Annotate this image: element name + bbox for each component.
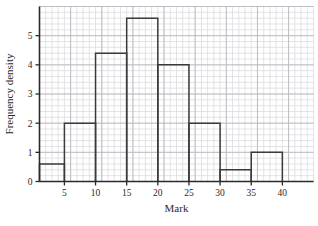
y-tick-label: 4 — [28, 60, 33, 70]
x-tick-label: 20 — [153, 188, 163, 198]
y-tick-label: 3 — [28, 89, 33, 99]
x-axis-title: Mark — [165, 202, 189, 214]
y-tick-label: 5 — [28, 31, 33, 41]
x-tick-label: 40 — [278, 188, 288, 198]
histogram-chart: 510152025303540 012345 Mark Frequency de… — [0, 0, 318, 226]
x-tick-label: 5 — [62, 188, 67, 198]
x-tick-label: 25 — [184, 188, 194, 198]
y-tick-label: 1 — [28, 148, 33, 158]
y-tick-label: 0 — [28, 177, 33, 187]
y-tick-label: 2 — [28, 119, 33, 129]
x-tick-label: 15 — [122, 188, 132, 198]
chart-canvas: 510152025303540 012345 Mark Frequency de… — [0, 0, 318, 226]
x-tick-label: 10 — [91, 188, 101, 198]
y-axis-title: Frequency density — [3, 53, 15, 134]
x-tick-label: 35 — [246, 188, 256, 198]
x-tick-label: 30 — [215, 188, 225, 198]
